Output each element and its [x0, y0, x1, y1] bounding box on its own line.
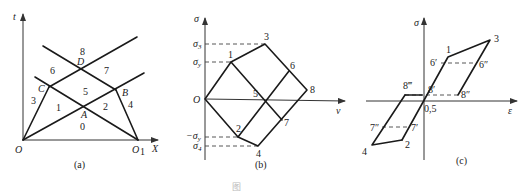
caption-a: (a)	[74, 159, 85, 171]
point-c-1: 1	[446, 44, 451, 55]
tick-sigmay: σy	[193, 56, 202, 69]
v-axis	[205, 99, 345, 101]
point-C: C	[38, 83, 45, 94]
line-C-D-ext	[49, 37, 137, 87]
epsilon-axis-label: ε	[508, 105, 512, 116]
point-c-6pp: 6″	[479, 59, 488, 70]
sigma-axis-label: σ	[194, 13, 200, 24]
point-1: 1	[228, 49, 233, 60]
point-B: B	[122, 87, 128, 98]
point-c-8p: 8′	[428, 84, 435, 95]
point-5: 5	[253, 88, 258, 99]
point-6: 6	[290, 60, 295, 71]
point-2: 2	[236, 123, 241, 134]
point-7: 7	[284, 117, 289, 128]
path-8ppp-4-2	[372, 95, 405, 145]
v-axis-label: v	[336, 105, 341, 116]
origin-label-c: 0,5	[424, 103, 437, 114]
panel-a: t X O O 1 A B C D 0 1 2 3 4 5 6 7 8 (a)	[13, 11, 159, 171]
t-axis-label: t	[13, 11, 16, 22]
origin-label-b: O	[193, 94, 200, 105]
region-4: 4	[128, 99, 133, 110]
region-0: 0	[80, 121, 85, 132]
point-8: 8	[310, 84, 315, 95]
point-A: A	[80, 109, 88, 120]
caption-c: (c)	[456, 155, 467, 167]
o1-subscript: 1	[140, 146, 145, 157]
region-3: 3	[31, 95, 36, 106]
origin-label: O	[15, 144, 22, 155]
point-D: D	[76, 56, 85, 67]
x-axis-label: X	[151, 143, 159, 154]
region-1: 1	[56, 102, 61, 113]
sigma-axis-label-c: σ	[414, 17, 420, 28]
panel-b: σ v O σ3 σy −σy σ4 1 2 3 4 5 6 7 8 (b)	[186, 13, 345, 171]
point-c-7p: 7′	[411, 122, 418, 133]
point-c-7pp: 7″	[370, 122, 379, 133]
caption-b: (b)	[255, 159, 267, 171]
point-3: 3	[264, 31, 269, 42]
tick-sigma3: σ3	[193, 38, 202, 51]
line-2-5-6	[238, 71, 289, 137]
region-5: 5	[83, 86, 88, 97]
point-c-2: 2	[405, 139, 410, 150]
region-7: 7	[104, 65, 109, 76]
o1-label: O	[132, 144, 139, 155]
point-c-8pp: 8″	[461, 89, 470, 100]
point-4: 4	[256, 148, 261, 159]
region-2: 2	[103, 101, 108, 112]
figure-canvas: t X O O 1 A B C D 0 1 2 3 4 5 6 7 8 (a) …	[0, 0, 527, 191]
region-8: 8	[80, 46, 85, 57]
figure-caption: 图	[232, 182, 241, 191]
point-c-8ppp: 8‴	[403, 80, 413, 91]
point-c-4: 4	[362, 146, 367, 157]
region-6: 6	[50, 65, 55, 76]
point-c-6p: 6′	[430, 57, 437, 68]
panel-c: σ ε 0,5 1 2 3 4 6′ 6″ 7′ 7″ 8′ 8″ 8‴ (c)	[362, 17, 517, 167]
point-c-3: 3	[494, 33, 499, 44]
